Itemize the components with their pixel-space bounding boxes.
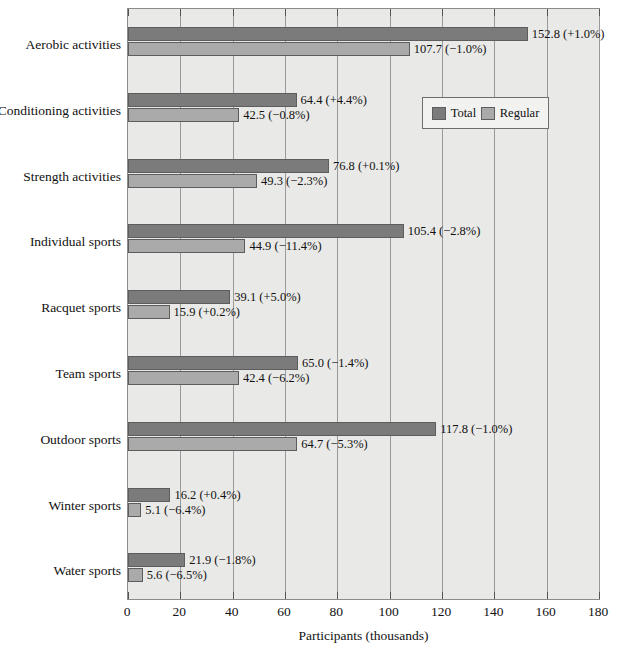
bar-regular xyxy=(128,568,143,582)
category-label: Strength activities xyxy=(23,170,121,184)
bar-value-label: 21.9 (−1.8%) xyxy=(189,553,255,567)
x-tick-mark-bottom xyxy=(233,592,234,599)
bar-total xyxy=(128,93,297,107)
x-tick-mark-top xyxy=(547,9,548,16)
x-tick-mark-top xyxy=(442,9,443,16)
x-tick-label: 100 xyxy=(359,604,419,620)
bar-total xyxy=(128,224,404,238)
x-tick-label: 120 xyxy=(411,604,471,620)
chart-legend: Total Regular xyxy=(422,97,549,129)
x-tick-mark-bottom xyxy=(442,592,443,599)
x-tick-mark-top xyxy=(599,9,600,16)
x-tick-mark-top xyxy=(494,9,495,16)
category-label: Individual sports xyxy=(30,235,121,249)
x-tick-label: 140 xyxy=(463,604,523,620)
bar-value-label: 49.3 (−2.3%) xyxy=(261,174,327,188)
x-tick-label: 20 xyxy=(149,604,209,620)
x-tick-mark-top xyxy=(128,9,129,16)
x-tick-mark-bottom xyxy=(285,592,286,599)
bar-value-label: 5.6 (−6.5%) xyxy=(147,568,207,582)
x-tick-mark-bottom xyxy=(128,592,129,599)
x-tick-mark-top xyxy=(337,9,338,16)
gridline xyxy=(599,9,600,599)
bar-regular xyxy=(128,305,170,319)
x-tick-mark-bottom xyxy=(599,592,600,599)
bar-total xyxy=(128,290,230,304)
x-tick-mark-top xyxy=(180,9,181,16)
x-tick-mark-top xyxy=(390,9,391,16)
bar-total xyxy=(128,488,170,502)
x-tick-mark-bottom xyxy=(547,592,548,599)
bar-regular xyxy=(128,503,141,517)
x-tick-mark-bottom xyxy=(337,592,338,599)
x-tick-mark-bottom xyxy=(494,592,495,599)
bar-chart: 152.8 (+1.0%)107.7 (−1.0%)64.4 (+4.4%)42… xyxy=(0,0,618,667)
x-tick-label: 80 xyxy=(306,604,366,620)
category-label: Aerobic activities xyxy=(25,38,121,52)
legend-label-regular: Regular xyxy=(500,107,540,120)
bar-value-label: 16.2 (+0.4%) xyxy=(174,488,240,502)
legend-label-total: Total xyxy=(451,107,477,120)
bar-value-label: 65.0 (−1.4%) xyxy=(302,356,368,370)
x-tick-mark-bottom xyxy=(180,592,181,599)
x-tick-label: 0 xyxy=(97,604,157,620)
category-label: Outdoor sports xyxy=(40,433,121,447)
x-axis-title: Participants (thousands) xyxy=(127,628,600,644)
bar-total xyxy=(128,27,528,41)
gridline xyxy=(390,9,391,599)
x-tick-label: 40 xyxy=(202,604,262,620)
bar-value-label: 64.4 (+4.4%) xyxy=(301,93,367,107)
bar-total xyxy=(128,422,436,436)
category-label: Team sports xyxy=(56,367,121,381)
bar-regular xyxy=(128,371,239,385)
bar-value-label: 117.8 (−1.0%) xyxy=(440,422,512,436)
x-tick-label: 160 xyxy=(516,604,576,620)
bar-value-label: 105.4 (−2.8%) xyxy=(408,224,481,238)
legend-item-regular: Regular xyxy=(481,107,540,120)
bar-total xyxy=(128,553,185,567)
category-label: Conditioning activities xyxy=(0,104,121,118)
category-label: Water sports xyxy=(53,564,121,578)
legend-swatch-total-icon xyxy=(432,107,446,120)
bar-value-label: 76.8 (+0.1%) xyxy=(333,159,399,173)
legend-swatch-regular-icon xyxy=(481,107,495,120)
x-tick-mark-top xyxy=(285,9,286,16)
bar-value-label: 152.8 (+1.0%) xyxy=(532,27,605,41)
x-tick-label: 180 xyxy=(568,604,618,620)
bar-regular xyxy=(128,174,257,188)
bar-value-label: 15.9 (+0.2%) xyxy=(174,305,240,319)
bar-regular xyxy=(128,42,410,56)
figure-caption-strip xyxy=(0,661,618,667)
bar-regular xyxy=(128,437,297,451)
bar-value-label: 42.4 (−6.2%) xyxy=(243,371,309,385)
bar-regular xyxy=(128,108,239,122)
x-tick-mark-top xyxy=(233,9,234,16)
bar-value-label: 42.5 (−0.8%) xyxy=(243,108,309,122)
x-tick-label: 60 xyxy=(254,604,314,620)
bar-value-label: 39.1 (+5.0%) xyxy=(234,290,300,304)
x-tick-mark-bottom xyxy=(390,592,391,599)
bar-value-label: 5.1 (−6.4%) xyxy=(145,503,205,517)
legend-item-total: Total xyxy=(432,107,477,120)
bar-value-label: 64.7 (−5.3%) xyxy=(301,437,367,451)
bar-value-label: 107.7 (−1.0%) xyxy=(414,42,487,56)
bar-total xyxy=(128,159,329,173)
bar-total xyxy=(128,356,298,370)
category-label: Winter sports xyxy=(48,499,121,513)
bar-value-label: 44.9 (−11.4%) xyxy=(249,239,321,253)
category-label: Racquet sports xyxy=(41,301,121,315)
bar-regular xyxy=(128,239,245,253)
